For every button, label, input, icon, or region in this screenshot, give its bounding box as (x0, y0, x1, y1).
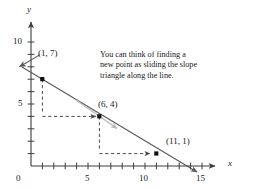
graph-canvas (0, 0, 254, 189)
y-axis-label: y (27, 4, 31, 14)
graph-figure: y x 10 5 0 5 10 15 (1, 7) (6, 4) (11, 1)… (0, 0, 254, 189)
point-label-1-7: (1, 7) (38, 48, 58, 58)
point-label-6-4: (6, 4) (98, 99, 118, 109)
point-label-11-1: (11, 1) (166, 136, 190, 146)
x-tick-label-10: 10 (139, 173, 148, 183)
y-tick-label-5: 5 (18, 98, 23, 108)
annotation-text: You can think of finding a new point as … (100, 50, 220, 81)
annotation-line-2: new point as sliding the slope (100, 60, 220, 70)
y-axis (28, 22, 35, 166)
y-tick-label-10: 10 (13, 36, 22, 46)
slope-triangle-1 (42, 79, 96, 116)
point-marker-1-7 (40, 77, 44, 81)
annotation-line-1: You can think of finding a (100, 50, 220, 60)
point-marker-11-1 (154, 151, 158, 155)
point-marker-6-4 (97, 114, 101, 118)
annotation-line-3: triangle along the line. (100, 71, 220, 81)
x-tick-label-5: 5 (85, 173, 90, 183)
x-tick-label-0: 0 (16, 173, 21, 183)
x-axis-label: x (228, 158, 232, 168)
x-tick-label-15: 15 (196, 173, 205, 183)
